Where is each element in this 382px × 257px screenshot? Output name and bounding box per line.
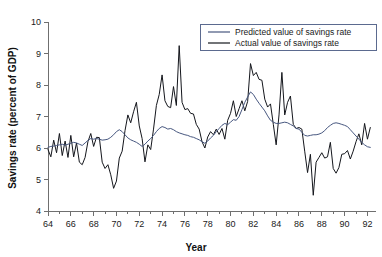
savings-rate-figure: 45678910 646668707274767880828486889092 …: [0, 0, 382, 257]
x-tick-label: 78: [203, 219, 213, 229]
x-tick-label: 64: [43, 219, 53, 229]
series-line-predicted: [48, 92, 370, 147]
y-tick-label: 8: [36, 80, 41, 90]
y-tick-label: 9: [36, 49, 41, 59]
x-tick-label: 84: [271, 219, 281, 229]
y-tick-label: 6: [36, 143, 41, 153]
y-tick-label: 7: [36, 112, 41, 122]
series-line-actual: [48, 46, 370, 196]
x-tick-label: 76: [180, 219, 190, 229]
x-tick-label: 86: [294, 219, 304, 229]
x-tick-label: 90: [340, 219, 350, 229]
x-tick-label: 80: [226, 219, 236, 229]
x-axis-title: Year: [185, 242, 206, 253]
legend-label: Actual value of savings rate: [235, 38, 339, 48]
y-tick-label: 5: [36, 175, 41, 185]
y-axis-title: Savings rate (percent of GDP): [7, 47, 18, 189]
savings-rate-line-chart: 45678910 646668707274767880828486889092 …: [0, 0, 382, 257]
y-tick-label: 10: [31, 17, 41, 27]
x-tick-label: 88: [317, 219, 327, 229]
y-axis: 45678910: [31, 17, 48, 216]
chart-series-group: [48, 46, 370, 196]
y-tick-label: 4: [36, 206, 41, 216]
x-tick-label: 68: [89, 219, 99, 229]
x-tick-label: 74: [157, 219, 167, 229]
x-tick-label: 82: [248, 219, 258, 229]
chart-legend: Predicted value of savings rateActual va…: [200, 24, 376, 50]
x-tick-label: 72: [134, 219, 144, 229]
legend-label: Predicted value of savings rate: [235, 27, 352, 37]
x-tick-label: 70: [111, 219, 121, 229]
x-tick-label: 66: [66, 219, 76, 229]
x-axis: 646668707274767880828486889092: [43, 211, 376, 229]
x-tick-label: 92: [362, 219, 372, 229]
